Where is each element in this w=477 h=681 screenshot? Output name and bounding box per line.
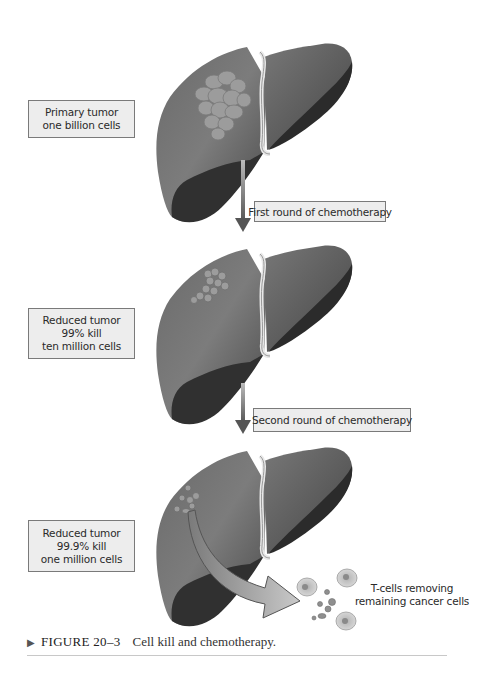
liver-stage-1 (156, 44, 352, 223)
stage-3-label: Reduced tumor 99.9% kill one million cel… (28, 520, 135, 572)
transition-2-text: Second round of chemotherapy (252, 414, 412, 426)
caption-text: Cell kill and chemotherapy. (133, 634, 277, 649)
cancer-cell-debris (312, 590, 336, 621)
transition-1-text: First round of chemotherapy (248, 206, 392, 218)
caption-divider (27, 655, 447, 656)
tcells-label: T-cells removing remaining cancer cells (352, 582, 472, 608)
chemotherapy-diagram: Primary tumor one billion cells First ro… (0, 0, 477, 681)
stage-2-label-line-3: ten million cells (42, 340, 121, 353)
tcell-1 (297, 578, 317, 596)
transition-2-label: Second round of chemotherapy (253, 408, 411, 432)
tcell-3 (336, 612, 356, 630)
stage-2-label-line-2: 99% kill (62, 327, 102, 340)
stage-1-label: Primary tumor one billion cells (28, 100, 135, 138)
stage-1-label-line-2: one billion cells (43, 119, 121, 132)
caption-marker-icon: ▶ (27, 637, 35, 648)
stage-3-label-line-2: 99.9% kill (57, 540, 107, 553)
stage-2-label-line-1: Reduced tumor (43, 314, 121, 327)
tcells-label-line-2: remaining cancer cells (352, 595, 472, 608)
transition-1-label: First round of chemotherapy (254, 201, 386, 222)
figure-caption: ▶FIGURE 20–3Cell kill and chemotherapy. (27, 634, 276, 650)
stage-3-label-line-1: Reduced tumor (43, 527, 121, 540)
tcell-group (297, 569, 357, 630)
figure-number: FIGURE 20–3 (41, 634, 121, 649)
stage-3-label-line-3: one million cells (41, 553, 122, 566)
stage-1-label-line-1: Primary tumor (45, 106, 118, 119)
liver-stage-2 (156, 246, 352, 425)
stage-2-label: Reduced tumor 99% kill ten million cells (28, 308, 135, 359)
tcells-label-line-1: T-cells removing (352, 582, 472, 595)
